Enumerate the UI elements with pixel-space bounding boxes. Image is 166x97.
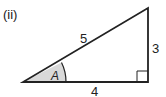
angle-label: A <box>50 69 59 83</box>
right-triangle-diagram: (ii) 5 3 4 A <box>0 0 166 97</box>
hypotenuse-label: 5 <box>80 31 87 46</box>
right-angle-marker <box>137 71 148 82</box>
opposite-side-label: 3 <box>152 41 159 56</box>
adjacent-side-label: 4 <box>91 84 98 97</box>
part-label: (ii) <box>3 7 17 22</box>
